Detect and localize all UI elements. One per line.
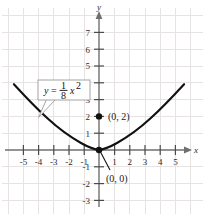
- x-tick-label: 3: [143, 157, 148, 167]
- equation-exponent: 2: [76, 80, 81, 91]
- y-tick-label: -3: [83, 196, 91, 206]
- equation-denominator: 8: [61, 90, 66, 101]
- point-label-0-0: (0, 0): [106, 173, 128, 185]
- point-marker-0-2: [96, 113, 102, 119]
- equation-lhs: y: [43, 85, 49, 96]
- y-tick-label: -1: [83, 162, 91, 172]
- y-tick-label: 7: [86, 28, 91, 38]
- x-tick-label: -3: [50, 157, 58, 167]
- x-axis-label: x: [193, 145, 198, 155]
- y-axis-label: y: [96, 2, 101, 12]
- x-tick-label: 5: [173, 157, 178, 167]
- x-tick-label: 1: [112, 157, 117, 167]
- equation-variable: x: [69, 85, 75, 96]
- y-tick-label: -2: [83, 179, 91, 189]
- x-tick-label: 4: [158, 157, 163, 167]
- y-tick-label: 5: [86, 61, 91, 71]
- x-tick-label: -4: [35, 157, 43, 167]
- graph-canvas: -5 -4 -3 -2 -1 1 2 3 4 5 7 6 5 4 3 2 1 -…: [0, 0, 205, 220]
- y-tick-label: 2: [86, 112, 91, 122]
- y-tick-label: 1: [86, 129, 91, 139]
- y-tick-label: 6: [86, 45, 91, 55]
- x-tick-label: -5: [20, 157, 28, 167]
- y-axis-arrowhead: [96, 11, 103, 19]
- equation-equals: =: [51, 85, 57, 96]
- parabola-figure: -5 -4 -3 -2 -1 1 2 3 4 5 7 6 5 4 3 2 1 -…: [0, 0, 205, 220]
- x-tick-label: -2: [65, 157, 73, 167]
- callout-pointer: [39, 100, 56, 118]
- point-label-0-2: (0, 2): [108, 111, 130, 123]
- x-tick-label: 2: [128, 157, 133, 167]
